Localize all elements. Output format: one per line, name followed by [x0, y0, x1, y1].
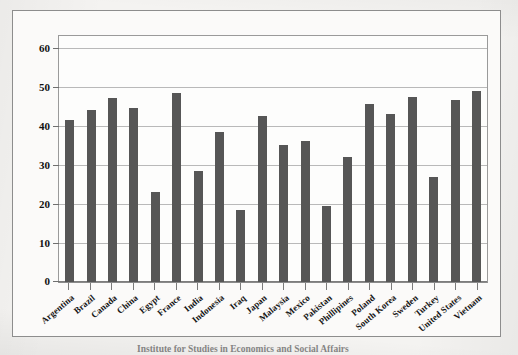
bar: [194, 171, 203, 282]
x-tick: [326, 283, 327, 290]
x-tick-slot: [144, 283, 166, 291]
x-label-slot: South Korea: [381, 291, 403, 347]
bar-slot: [209, 36, 230, 282]
figure-caption: Institute for Studies in Economics and S…: [137, 344, 497, 355]
x-tick-slot: [424, 283, 446, 291]
y-axis-label-50: 50: [39, 81, 50, 93]
bar-slot: [187, 36, 208, 282]
x-label-slot: Canada: [101, 291, 123, 347]
bar-slot: [316, 36, 337, 282]
x-label-slot: Vietnam: [467, 291, 489, 347]
x-tick-slot: [338, 283, 360, 291]
x-tick: [197, 283, 198, 290]
y-axis-label-10: 10: [39, 237, 50, 249]
bar: [236, 210, 245, 282]
x-tick-slot: [445, 283, 467, 291]
bar-slot: [166, 36, 187, 282]
x-tick: [240, 283, 241, 290]
x-tick-slot: [359, 283, 381, 291]
x-axis-label: Argentina: [39, 292, 76, 325]
bar-slot: [230, 36, 251, 282]
bar-series: [59, 36, 487, 282]
y-axis-label-20: 20: [39, 198, 50, 210]
bar: [151, 192, 160, 282]
bar-slot: [102, 36, 123, 282]
bar-slot: [359, 36, 380, 282]
x-tick-slot: [101, 283, 123, 291]
x-tick-slot: [381, 283, 403, 291]
bar-slot: [145, 36, 166, 282]
bar: [172, 93, 181, 282]
x-tick: [176, 283, 177, 290]
x-label-slot: Sweden: [402, 291, 424, 347]
x-label-slot: China: [123, 291, 145, 347]
bar: [429, 177, 438, 282]
x-label-slot: Egypt: [144, 291, 166, 347]
x-tick: [434, 283, 435, 290]
bar-slot: [123, 36, 144, 282]
x-label-slot: Argentina: [58, 291, 80, 347]
x-tick-slot: [295, 283, 317, 291]
x-label-slot: Phillipines: [338, 291, 360, 347]
bar-slot: [252, 36, 273, 282]
bar: [386, 114, 395, 282]
x-tick: [412, 283, 413, 290]
x-label-slot: Iraq: [230, 291, 252, 347]
x-tick: [369, 283, 370, 290]
x-tick-slot: [316, 283, 338, 291]
x-tick: [111, 283, 112, 290]
x-axis-ticks: [58, 283, 488, 291]
x-tick-slot: [273, 283, 295, 291]
bar-slot: [80, 36, 101, 282]
bar: [108, 98, 117, 282]
bar: [451, 100, 460, 282]
bar: [65, 120, 74, 282]
x-tick-slot: [80, 283, 102, 291]
x-tick-slot: [230, 283, 252, 291]
bar-slot: [337, 36, 358, 282]
x-tick-slot: [252, 283, 274, 291]
bar-slot: [294, 36, 315, 282]
x-tick-slot: [467, 283, 489, 291]
bar: [87, 110, 96, 282]
bar: [301, 141, 310, 282]
bar-slot: [444, 36, 465, 282]
bar: [365, 104, 374, 282]
x-tick: [262, 283, 263, 290]
x-tick: [133, 283, 134, 290]
x-tick: [455, 283, 456, 290]
bar-slot: [380, 36, 401, 282]
bar: [472, 91, 481, 282]
bar: [343, 157, 352, 282]
x-tick: [283, 283, 284, 290]
bar-slot: [59, 36, 80, 282]
x-label-slot: France: [166, 291, 188, 347]
y-axis-label-30: 30: [39, 159, 50, 171]
x-tick: [391, 283, 392, 290]
x-tick-slot: [209, 283, 231, 291]
bar-slot: [466, 36, 487, 282]
x-tick: [68, 283, 69, 290]
bar-slot: [273, 36, 294, 282]
x-label-slot: Malaysia: [273, 291, 295, 347]
bar: [408, 97, 417, 282]
x-tick: [477, 283, 478, 290]
bar: [258, 116, 267, 282]
x-tick-slot: [187, 283, 209, 291]
plot-area: 0102030405060: [58, 35, 488, 283]
x-tick-slot: [402, 283, 424, 291]
y-axis-label-0: 0: [45, 275, 51, 287]
bar: [129, 108, 138, 282]
bar: [322, 206, 331, 282]
x-tick: [90, 283, 91, 290]
x-tick-slot: [123, 283, 145, 291]
x-tick-slot: [58, 283, 80, 291]
x-tick-slot: [166, 283, 188, 291]
bar: [215, 132, 224, 282]
y-axis-label-60: 60: [39, 42, 50, 54]
bar-slot: [423, 36, 444, 282]
bar: [279, 145, 288, 282]
x-axis-labels: ArgentinaBrazilCanadaChinaEgyptFranceInd…: [58, 291, 488, 347]
bar-slot: [402, 36, 423, 282]
y-axis-label-40: 40: [39, 120, 50, 132]
